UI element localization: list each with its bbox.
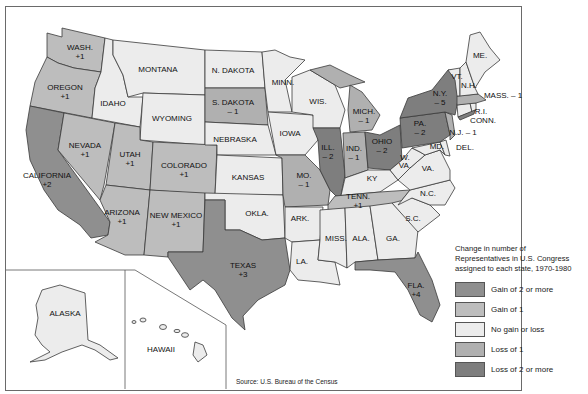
legend-item-loss2: Loss of 2 or more: [455, 359, 585, 379]
label-ill-change: – 2: [322, 152, 334, 161]
label-colorado: COLORADO: [161, 161, 207, 170]
label-ny: N.Y.: [433, 89, 448, 98]
label-del: DEL.: [456, 143, 474, 152]
legend-label: Gain of 1: [491, 305, 523, 314]
label-nh: N.H.: [461, 81, 477, 90]
label-ala: ALA.: [352, 234, 369, 243]
label-ky: KY: [367, 174, 378, 183]
label-mich: MICH.: [353, 107, 376, 116]
label-mass: MASS. – 1: [484, 91, 523, 100]
label-california-change: +2: [42, 180, 52, 189]
legend-title-line: Change in number of: [455, 244, 585, 254]
label-sdakota-change: – 1: [227, 107, 239, 116]
label-montana: MONTANA: [138, 65, 178, 74]
label-wyoming: WYOMING: [152, 114, 192, 123]
label-nebraska: NEBRASKA: [213, 135, 257, 144]
label-alaska: ALASKA: [49, 309, 81, 318]
legend-label: Loss of 1: [491, 345, 523, 354]
label-ind-change: – 1: [348, 153, 360, 162]
label-mich-change: – 1: [358, 116, 370, 125]
label-fla: FLA.: [408, 281, 425, 290]
label-fla-change: +4: [411, 290, 421, 299]
legend-label: Loss of 2 or more: [491, 365, 553, 374]
label-vt: VT.: [451, 72, 463, 81]
label-minn: MINN.: [272, 78, 295, 87]
legend-title: Change in number of Representatives in U…: [455, 244, 585, 274]
label-ga: GA.: [386, 234, 400, 243]
label-nevada-change: +1: [80, 150, 90, 159]
label-colorado-change: +1: [179, 170, 189, 179]
label-ill: ILL.: [321, 143, 334, 152]
label-mo-change: – 1: [298, 180, 310, 189]
label-wis: WIS.: [309, 97, 326, 106]
legend-item-loss1: Loss of 1: [455, 339, 585, 359]
legend-label: Gain of 2 or more: [491, 285, 553, 294]
label-ind: IND.: [346, 144, 362, 153]
label-utah-change: +1: [125, 159, 135, 168]
label-texas: TEXAS: [230, 261, 256, 270]
legend-title-line: Representatives in U.S. Congress: [455, 254, 585, 264]
label-me: ME.: [473, 51, 487, 60]
label-texas-change: +3: [238, 270, 248, 279]
state-alaska[interactable]: [30, 285, 118, 362]
label-ny-change: – 5: [434, 98, 446, 107]
label-conn: CONN.: [470, 116, 496, 125]
state-arkansas[interactable]: [285, 207, 323, 242]
legend-item-none: No gain or loss: [455, 319, 585, 339]
label-arizona-change: +1: [117, 217, 127, 226]
label-pa: PA.: [414, 119, 426, 128]
label-nj: N.J. – 1: [449, 128, 477, 137]
swatch-loss2: [455, 362, 485, 377]
source-note: Source: U.S. Bureau of the Census: [236, 378, 338, 385]
label-okla: OKLA.: [245, 209, 269, 218]
state-hawaii[interactable]: [132, 318, 207, 362]
label-ndakota: N. DAKOTA: [212, 66, 255, 75]
label-newmexico: NEW MEXICO: [150, 211, 202, 220]
label-newmexico-change: +1: [171, 220, 181, 229]
legend-item-gain1: Gain of 1: [455, 299, 585, 319]
label-md: MD.: [430, 142, 445, 151]
state-newyork[interactable]: [400, 70, 458, 118]
label-california: CALIFORNIA: [23, 171, 72, 180]
label-nevada: NEVADA: [69, 141, 102, 150]
legend-title-line: assigned to each state, 1970-1980: [455, 264, 585, 274]
label-ark: ARK.: [291, 214, 310, 223]
label-hawaii: HAWAII: [147, 345, 175, 354]
label-idaho: IDAHO: [100, 99, 125, 108]
label-la: LA.: [296, 257, 308, 266]
label-sc: S.C.: [405, 214, 421, 223]
label-wash: WASH.: [67, 43, 93, 52]
label-arizona: ARIZONA: [104, 208, 140, 217]
label-tenn-change: +1: [353, 201, 363, 210]
label-ohio-change: – 2: [376, 146, 388, 155]
label-ohio: OHIO: [372, 137, 392, 146]
legend-label: No gain or loss: [491, 325, 544, 334]
swatch-gain1: [455, 302, 485, 317]
label-kansas: KANSAS: [232, 173, 264, 182]
label-wash-change: +1: [75, 52, 85, 61]
swatch-gain2: [455, 282, 485, 297]
swatch-loss1: [455, 342, 485, 357]
label-miss: MISS.: [325, 234, 347, 243]
label-sdakota: S. DAKOTA: [212, 98, 255, 107]
legend: Change in number of Representatives in U…: [455, 244, 585, 379]
label-oregon-change: +1: [60, 92, 70, 101]
label-iowa: IOWA: [279, 129, 301, 138]
label-tenn: TENN.: [346, 192, 370, 201]
label-pa-change: – 2: [414, 128, 426, 137]
state-florida[interactable]: [355, 252, 440, 322]
label-utah: UTAH: [119, 150, 140, 159]
label-oregon: OREGON: [47, 83, 83, 92]
label-mo: MO.: [296, 171, 311, 180]
label-ri: R.I.: [475, 107, 487, 116]
swatch-none: [455, 322, 485, 337]
legend-item-gain2: Gain of 2 or more: [455, 279, 585, 299]
label-nc: N.C.: [420, 189, 436, 198]
label-va: VA.: [422, 164, 434, 173]
label-wva-2: VA.: [399, 161, 411, 170]
